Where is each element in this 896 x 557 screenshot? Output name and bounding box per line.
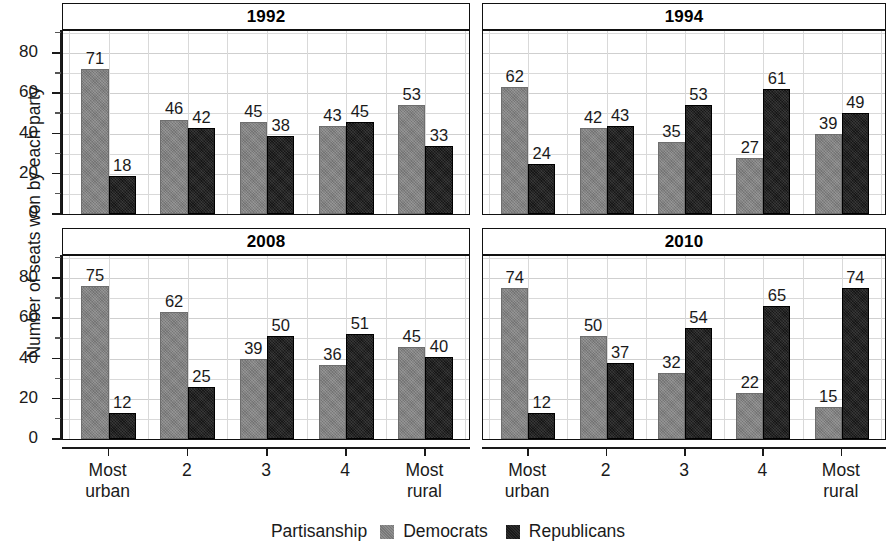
gridline-vertical <box>724 31 725 214</box>
x-tick-label: Mosturban <box>505 460 550 502</box>
x-tick-label: 2 <box>182 460 192 481</box>
bar-1992-2-republicans <box>188 128 215 214</box>
plot-area-2010: 74125037325422651574 <box>482 255 886 440</box>
bar-value-label: 75 <box>86 266 104 285</box>
legend-swatch-democrats <box>380 525 394 539</box>
bar-2010-3-republicans <box>685 328 712 439</box>
bar-value-label: 32 <box>662 353 680 372</box>
bar-2010-most-urban-republicans <box>528 413 555 439</box>
gridline-horizontal <box>483 298 885 299</box>
x-axis-2010: Mosturban234Mostrural <box>482 447 886 449</box>
y-tick-label: 60 <box>19 82 38 102</box>
y-tick-label: 80 <box>19 267 38 287</box>
x-tick-label: 2 <box>601 460 611 481</box>
bar-2008-4-republicans <box>346 334 373 439</box>
bar-2008-most-rural-democrats <box>398 347 425 440</box>
bar-1994-4-democrats <box>736 158 763 214</box>
legend-label-republicans: Republicans <box>529 521 625 542</box>
gridline-horizontal <box>63 53 469 54</box>
bar-2010-4-democrats <box>736 393 763 439</box>
y-tick-minor <box>55 297 61 298</box>
x-tick-label: Mosturban <box>85 460 130 502</box>
bar-value-label: 46 <box>165 99 183 118</box>
bar-2008-most-urban-republicans <box>109 413 136 439</box>
bar-value-label: 51 <box>351 314 369 333</box>
x-tick <box>684 447 686 456</box>
gridline-vertical <box>803 31 804 214</box>
gridline-vertical <box>307 256 308 439</box>
legend-label-democrats: Democrats <box>403 521 488 542</box>
bar-value-label: 62 <box>165 292 183 311</box>
gridline-vertical <box>881 256 882 439</box>
gridline-vertical <box>528 256 529 439</box>
x-tick <box>266 447 268 456</box>
legend-entry-democrats[interactable]: Democrats <box>380 521 488 542</box>
gridline-horizontal <box>483 278 885 279</box>
gridline-horizontal <box>483 258 885 259</box>
y-tick-label: 0 <box>29 428 38 448</box>
bar-value-label: 42 <box>192 108 210 127</box>
y-tick-major <box>52 438 61 440</box>
bar-value-label: 22 <box>741 373 759 392</box>
bar-value-label: 49 <box>846 93 864 112</box>
bar-value-label: 24 <box>533 144 551 163</box>
gridline-vertical <box>69 256 70 439</box>
bar-1992-most-urban-republicans <box>109 176 136 214</box>
bar-1992-4-republicans <box>346 122 373 215</box>
chart-legend: Partisanship Democrats Republicans <box>0 521 896 542</box>
gridline-horizontal <box>63 258 469 259</box>
legend-title: Partisanship <box>271 521 367 542</box>
gridline-horizontal <box>63 278 469 279</box>
y-tick-minor <box>55 257 61 258</box>
y-tick-minor <box>55 418 61 419</box>
y-tick-label: 40 <box>19 348 38 368</box>
bar-2008-3-democrats <box>240 359 267 439</box>
gridline-vertical <box>465 256 466 439</box>
x-tick-label: 3 <box>261 460 271 481</box>
gridline-horizontal <box>483 73 885 74</box>
gridline-vertical <box>881 31 882 214</box>
gridline-vertical <box>465 31 466 214</box>
bar-1994-3-republicans <box>685 105 712 214</box>
y-tick-minor <box>55 72 61 73</box>
bar-2008-4-democrats <box>319 365 346 439</box>
bar-value-label: 71 <box>86 49 104 68</box>
panel-1992: 199271184642453843455333 <box>62 3 470 215</box>
plot-area-2008: 75126225395036514540 <box>62 255 470 440</box>
y-tick-label: 40 <box>19 123 38 143</box>
y-tick-major <box>52 358 61 360</box>
bar-1994-2-republicans <box>607 126 634 214</box>
plot-area-1992: 71184642453843455333 <box>62 30 470 215</box>
x-tick <box>527 447 529 456</box>
gridline-vertical <box>307 31 308 214</box>
legend-swatch-republicans <box>506 525 520 539</box>
bar-value-label: 40 <box>430 337 448 356</box>
bar-value-label: 62 <box>505 67 523 86</box>
gridline-horizontal <box>483 53 885 54</box>
gridline-horizontal <box>63 33 469 34</box>
gridline-vertical <box>646 256 647 439</box>
bar-value-label: 54 <box>689 308 707 327</box>
y-tick-minor <box>55 378 61 379</box>
legend-entry-republicans[interactable]: Republicans <box>506 521 625 542</box>
panel-title-1994: 1994 <box>482 3 886 30</box>
bar-2008-most-rural-republicans <box>425 357 452 439</box>
y-tick-label: 0 <box>29 203 38 223</box>
gridline-horizontal <box>483 214 885 215</box>
panel-title-2010: 2010 <box>482 228 886 255</box>
bar-value-label: 37 <box>611 343 629 362</box>
gridline-vertical <box>148 31 149 214</box>
x-tick <box>841 447 843 456</box>
bar-value-label: 39 <box>819 114 837 133</box>
bar-1992-3-democrats <box>240 122 267 215</box>
bar-value-label: 33 <box>430 126 448 145</box>
gridline-vertical <box>109 256 110 439</box>
gridline-horizontal <box>63 298 469 299</box>
panel-title-2008: 2008 <box>62 228 470 255</box>
bar-value-label: 50 <box>584 316 602 335</box>
bar-value-label: 74 <box>505 268 523 287</box>
x-tick-label: Mostrural <box>822 460 860 502</box>
y-tick-major <box>52 173 61 175</box>
bar-2008-2-democrats <box>160 312 187 439</box>
bar-1994-most-rural-democrats <box>815 134 842 214</box>
